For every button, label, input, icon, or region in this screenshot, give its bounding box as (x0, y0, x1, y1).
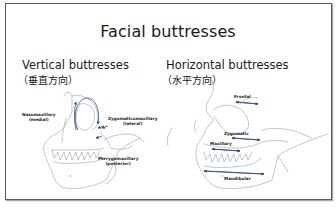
vertical-skull-sketch (43, 92, 144, 188)
maxillary-arrow-left (212, 149, 240, 151)
label-nasomaxillary-line2: (medial) (22, 117, 56, 122)
mandibular-arrow-left (204, 171, 264, 174)
label-frontal: Frontal (234, 94, 251, 99)
label-mandibular: Mandibular (224, 176, 251, 181)
label-nasomaxillary: Nasomaxillary (medial) (22, 112, 56, 122)
frontal-arrow-left (236, 102, 258, 104)
skull-illustrations (0, 0, 336, 209)
label-pterygomaxillary: Pterygomaxillary (posterior) (98, 156, 138, 166)
pterygomaxillary-arrow (96, 136, 102, 138)
label-zygomatic: Zygomatic (224, 131, 249, 136)
zygomaticomaxillary-arrow-top (75, 98, 98, 130)
zygomatic-arrow-left (232, 138, 260, 140)
label-pterygomaxillary-line2: (posterior) (98, 161, 138, 166)
label-zygomaticomaxillary-line2: (lateral) (108, 121, 157, 126)
label-zygomaticomaxillary: Zygomaticomaxillary (lateral) (108, 116, 157, 126)
label-maxillary: Maxillary (210, 141, 232, 146)
